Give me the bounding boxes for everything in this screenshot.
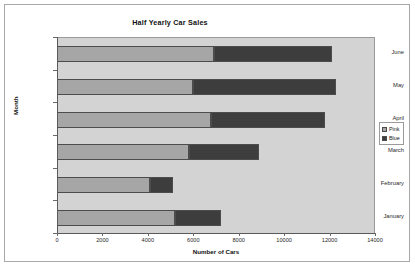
bar-segment-blue: [189, 144, 259, 160]
y-tick-mark: [53, 135, 57, 136]
x-tick-label: 8000: [224, 237, 254, 243]
x-tick-label: 14000: [360, 237, 390, 243]
legend-label: Pink: [389, 126, 400, 132]
x-tick-label: 12000: [315, 237, 345, 243]
y-tick-label-march: March: [363, 147, 409, 153]
x-tick-label: 10000: [269, 237, 299, 243]
legend-swatch-icon: [382, 127, 387, 132]
legend-entry-blue: Blue: [382, 134, 400, 142]
x-tick-mark: [148, 233, 149, 236]
y-tick-label-may: May: [363, 82, 409, 88]
bar-segment-blue: [211, 112, 325, 128]
x-tick-mark: [284, 233, 285, 236]
x-axis-title: Number of Cars: [57, 248, 375, 255]
y-tick-mark: [53, 200, 57, 201]
y-tick-label-april: April: [363, 115, 409, 121]
x-tick-mark: [375, 233, 376, 236]
bar-segment-pink: [57, 210, 175, 226]
chart-screenshot: Half Yearly Car Sales 020004000600080001…: [0, 0, 415, 267]
legend-label: Blue: [389, 135, 400, 141]
bar-segment-pink: [57, 79, 193, 95]
y-tick-mark: [53, 37, 57, 38]
x-tick-label: 2000: [87, 237, 117, 243]
y-axis-line: [57, 37, 58, 234]
x-tick-mark: [57, 233, 58, 236]
bar-segment-pink: [57, 46, 214, 62]
x-tick-label: 0: [42, 237, 72, 243]
chart-legend: PinkBlue: [379, 122, 404, 145]
chart-frame: Half Yearly Car Sales 020004000600080001…: [4, 4, 410, 262]
x-tick-mark: [102, 233, 103, 236]
plot-area: [57, 37, 375, 233]
bar-segment-blue: [214, 46, 332, 62]
x-tick-mark: [193, 233, 194, 236]
y-tick-label-january: January: [363, 213, 409, 219]
y-tick-label-february: February: [363, 180, 409, 186]
bars-container: [57, 38, 374, 233]
bar-segment-pink: [57, 112, 211, 128]
legend-swatch-icon: [382, 136, 387, 141]
legend-entry-pink: Pink: [382, 125, 400, 133]
y-tick-mark: [53, 168, 57, 169]
y-tick-label-june: June: [363, 49, 409, 55]
chart-title: Half Yearly Car Sales: [5, 18, 335, 27]
bar-segment-blue: [175, 210, 220, 226]
y-axis-title: Month: [12, 96, 19, 115]
x-tick-mark: [330, 233, 331, 236]
y-tick-mark: [53, 102, 57, 103]
x-tick-label: 4000: [133, 237, 163, 243]
bar-segment-blue: [193, 79, 336, 95]
y-tick-mark: [53, 233, 57, 234]
y-tick-mark: [53, 70, 57, 71]
bar-segment-pink: [57, 144, 189, 160]
x-tick-mark: [239, 233, 240, 236]
x-axis-line: [57, 233, 376, 234]
bar-segment-blue: [150, 177, 173, 193]
x-tick-label: 6000: [178, 237, 208, 243]
bar-segment-pink: [57, 177, 150, 193]
